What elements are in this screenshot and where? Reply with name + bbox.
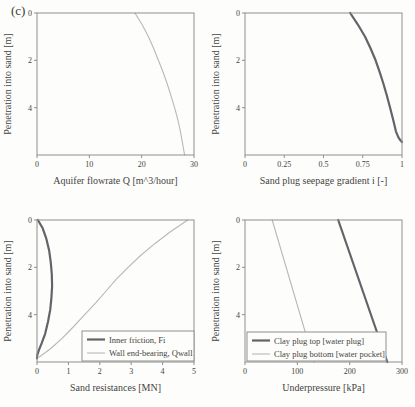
x-axis-label: Aquifer flowrate Q [m^3/hour] [53, 175, 177, 186]
y-tick-label: 4 [28, 104, 32, 113]
y-tick-label: 4 [236, 104, 240, 113]
y-tick-label: 0 [236, 216, 240, 225]
plot-frame [37, 13, 194, 155]
x-tick-label: 200 [344, 367, 356, 376]
y-tick-label: 0 [236, 9, 240, 18]
x-tick-label: 30 [190, 160, 198, 169]
x-tick-label: 4 [161, 367, 165, 376]
legend-entry-label: Clay plug top [water plug] [274, 336, 364, 346]
legend-entry-label: Wall end-bearing, Qwall [109, 348, 193, 358]
x-axis-label: Sand resistances [MN] [70, 382, 161, 393]
x-tick-label: 0.25 [277, 160, 291, 169]
x-tick-label: 0 [243, 367, 247, 376]
y-tick-label: 2 [28, 263, 32, 272]
subplot-sand-resistances: 012345024Sand resistances [MN]Penetratio… [0, 207, 207, 407]
x-tick-label: 1 [400, 160, 404, 169]
x-tick-label: 1 [66, 367, 70, 376]
legend-entry-label: Clay plug bottom [water pocket] [274, 349, 385, 359]
x-tick-label: 100 [291, 367, 303, 376]
x-tick-label: 10 [85, 160, 93, 169]
series-line [350, 13, 402, 142]
y-tick-label: 0 [28, 9, 32, 18]
y-tick-label: 0 [28, 216, 32, 225]
y-axis-label: Penetration into sand [m] [210, 33, 221, 134]
legend-entry-label: Inner friction, Fi [109, 335, 166, 345]
plot-frame [245, 13, 402, 155]
x-tick-label: 0 [35, 160, 39, 169]
x-tick-label: 0 [243, 160, 247, 169]
x-tick-label: 2 [98, 367, 102, 376]
x-tick-label: 0 [35, 367, 39, 376]
x-tick-label: 5 [192, 367, 196, 376]
subplot-seepage-gradient: 00.250.50.751024Sand plug seepage gradie… [208, 0, 415, 200]
y-tick-label: 4 [28, 311, 32, 320]
y-tick-label: 2 [236, 263, 240, 272]
series-line [37, 220, 52, 358]
x-tick-label: 0.5 [319, 160, 329, 169]
x-tick-label: 3 [129, 367, 133, 376]
y-tick-label: 4 [236, 311, 240, 320]
y-tick-label: 2 [28, 56, 32, 65]
chart-svg: 00.250.50.751024Sand plug seepage gradie… [208, 0, 415, 200]
x-tick-label: 20 [138, 160, 146, 169]
y-tick-label: 2 [236, 56, 240, 65]
chart-svg: 0102030024Aquifer flowrate Q [m^3/hour]P… [0, 0, 207, 200]
x-axis-label: Sand plug seepage gradient i [-] [260, 175, 387, 186]
chart-svg: 0100200300024Underpressure [kPa]Penetrat… [208, 207, 415, 407]
x-tick-label: 0.75 [356, 160, 370, 169]
y-axis-label: Penetration into sand [m] [210, 240, 221, 341]
y-axis-label: Penetration into sand [m] [2, 240, 13, 341]
figure-panel: (c) 0102030024Aquifer flowrate Q [m^3/ho… [0, 0, 415, 407]
series-line [135, 13, 185, 155]
chart-svg: 012345024Sand resistances [MN]Penetratio… [0, 207, 207, 407]
subplot-aquifer-flowrate: 0102030024Aquifer flowrate Q [m^3/hour]P… [0, 0, 207, 200]
x-tick-label: 300 [396, 367, 408, 376]
y-axis-label: Penetration into sand [m] [2, 33, 13, 134]
x-axis-label: Underpressure [kPa] [282, 382, 364, 393]
subplot-underpressure: 0100200300024Underpressure [kPa]Penetrat… [208, 207, 415, 407]
